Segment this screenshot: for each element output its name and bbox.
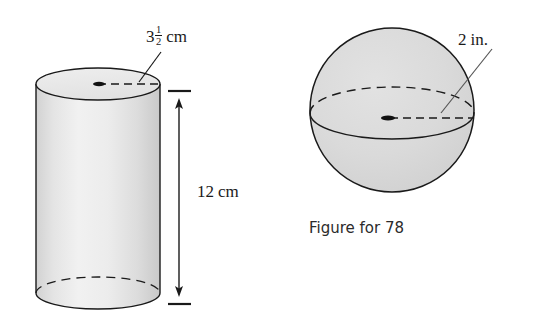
fraction-numerator: 1 bbox=[155, 24, 162, 36]
sphere-diameter-unit: in. bbox=[471, 30, 488, 49]
fraction-whole-part: 3 bbox=[146, 28, 155, 45]
cylinder-height-unit: cm bbox=[218, 182, 239, 201]
cylinder-shape bbox=[36, 52, 161, 309]
figure-caption: Figure for 78 bbox=[309, 221, 404, 236]
cylinder-diameter-unit: cm bbox=[166, 27, 187, 46]
figure-canvas bbox=[0, 0, 550, 328]
mixed-number-three-and-a-half: 312 bbox=[146, 24, 162, 47]
cylinder-diameter-label: 312cm bbox=[146, 24, 187, 47]
cylinder-height-value: 12 bbox=[197, 182, 214, 201]
sphere-diameter-value: 2 bbox=[458, 30, 467, 49]
fraction-one-half: 12 bbox=[155, 24, 162, 47]
sphere-center-dot bbox=[381, 116, 395, 121]
sphere-diameter-label: 2in. bbox=[458, 31, 488, 48]
fraction-denominator: 2 bbox=[155, 36, 162, 47]
cylinder-height-label: 12cm bbox=[197, 183, 239, 200]
cylinder-body-fill bbox=[36, 84, 160, 309]
sphere-outline bbox=[310, 28, 474, 192]
cylinder-center-dot bbox=[93, 82, 105, 86]
